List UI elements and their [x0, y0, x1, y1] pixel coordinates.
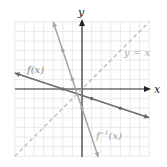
data-point	[61, 49, 65, 53]
f-label: f(x)	[26, 64, 44, 75]
data-point	[61, 87, 65, 91]
finv-label-sup: −1	[100, 129, 109, 136]
arrowhead-icon	[52, 22, 57, 28]
identity-label: y = x	[123, 47, 150, 58]
finv-label: f−1(x)	[95, 129, 122, 141]
arrowhead-icon	[15, 72, 21, 77]
data-point	[71, 78, 75, 82]
x-axis-arrow-icon	[144, 86, 151, 92]
data-point	[80, 106, 84, 110]
data-point	[119, 106, 123, 110]
x-axis-label: x	[154, 83, 161, 96]
finv-label-tail: (x)	[109, 130, 123, 141]
arrowhead-icon	[144, 114, 150, 119]
y-axis-arrow-icon	[79, 19, 85, 26]
y-axis-label: y	[77, 6, 85, 19]
data-point	[90, 97, 94, 101]
inverse-function-graph: x y f(x) y = x f−1(x)	[0, 0, 167, 167]
